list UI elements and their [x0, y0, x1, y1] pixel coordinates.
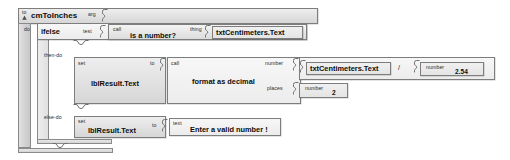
set-label-then: set: [78, 60, 85, 66]
procedure-arg-label: arg: [88, 11, 96, 17]
divisor-number-label: number: [426, 64, 444, 70]
places-number-label: number: [305, 85, 323, 91]
else-do-notch-icon: [73, 104, 85, 109]
number-socket-label: number: [265, 60, 283, 66]
ifelse-name[interactable]: ifelse: [41, 27, 60, 36]
else-do-label: else-do: [44, 114, 62, 120]
to-label-else: to: [152, 122, 157, 128]
ifelse-left-rail: [37, 23, 49, 144]
division-operator: /: [398, 64, 400, 72]
procedure-do-label: do: [24, 26, 30, 32]
set-target-else[interactable]: lblResult.Text: [88, 126, 136, 135]
thing-value-text[interactable]: txtCentimeters.Text: [216, 28, 284, 37]
call-label-test: call: [113, 26, 121, 32]
to-label-then: to: [150, 60, 155, 66]
procedure-bottom-bar: [18, 148, 113, 153]
places-socket-label: places: [267, 85, 283, 91]
procedure-left-spine: [18, 23, 31, 148]
format-as-decimal-name[interactable]: format as decimal: [192, 77, 255, 86]
text-label: text: [173, 120, 182, 126]
blocks-canvas[interactable]: to cmToInches arg do ifelse test call is…: [0, 0, 510, 160]
text-literal-value[interactable]: Enter a valid number !: [190, 125, 268, 134]
set-label-else: set: [78, 118, 85, 124]
procedure-to-label: to: [22, 9, 27, 15]
then-do-notch-icon: [73, 40, 85, 45]
ifelse-bottom-bar: [37, 139, 112, 144]
procedure-name[interactable]: cmToInches: [31, 11, 77, 21]
dividend-text[interactable]: txtCentimeters.Text: [310, 64, 378, 73]
set-target-then[interactable]: lblResult.Text: [91, 79, 139, 88]
call-label-format: call: [171, 60, 179, 66]
places-number-value[interactable]: 2: [332, 89, 336, 97]
divisor-value[interactable]: 2.54: [455, 68, 468, 76]
then-do-label: then-do: [44, 52, 62, 58]
is-a-number-name[interactable]: is a number?: [130, 31, 176, 40]
ifelse-test-label: test: [83, 28, 92, 34]
thing-label: thing: [190, 26, 202, 32]
